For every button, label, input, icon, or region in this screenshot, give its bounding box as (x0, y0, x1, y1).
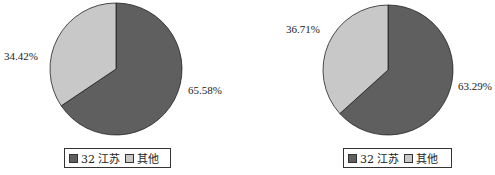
pie-chart-left: 34.42% 65.58% 32 江苏 其他 (0, 0, 250, 175)
legend-swatch-jiangsu (348, 154, 357, 163)
label-main-left: 65.58% (188, 84, 222, 96)
pie-right-slices (323, 5, 453, 135)
pie-left-slices (50, 3, 182, 135)
label-main-right: 63.29% (458, 80, 492, 92)
legend-label-jiangsu: 32 江苏 (81, 150, 121, 166)
pie-chart-right: 36.71% 63.29% 32 江苏 其他 (250, 0, 495, 175)
legend-label-other: 其他 (137, 150, 159, 166)
legend-swatch-other (404, 154, 413, 163)
legend-label-other: 其他 (416, 150, 438, 166)
legend-right: 32 江苏 其他 (343, 148, 452, 168)
legend-left: 32 江苏 其他 (64, 148, 171, 168)
legend-label-jiangsu: 32 江苏 (360, 150, 400, 166)
label-other-left: 34.42% (4, 50, 38, 62)
legend-swatch-jiangsu (69, 154, 78, 163)
label-other-right: 36.71% (286, 23, 320, 35)
legend-swatch-other (125, 154, 134, 163)
